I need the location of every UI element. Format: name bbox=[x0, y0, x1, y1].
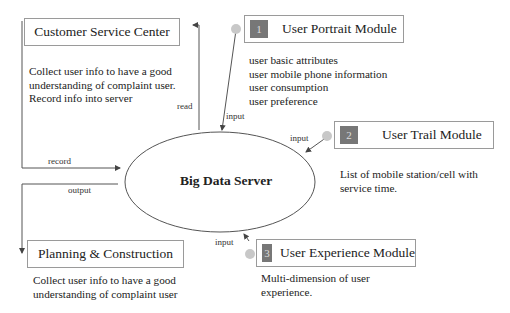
module-user-portrait: 1 User Portrait Module bbox=[244, 15, 404, 43]
module-title: User Portrait Module bbox=[282, 21, 397, 37]
module-number-badge: 1 bbox=[250, 20, 268, 38]
module-user-experience-description: Multi-dimension of user experience. bbox=[261, 272, 370, 299]
module-user-experience: 3 User Experience Module bbox=[256, 239, 416, 267]
customer-service-description: Collect user info to have a good underst… bbox=[29, 65, 176, 106]
input-label-2: input bbox=[290, 133, 309, 143]
input-label-1: input bbox=[226, 111, 245, 121]
output-label: output bbox=[68, 185, 91, 195]
customer-service-title: Customer Service Center bbox=[34, 24, 170, 40]
record-label: record bbox=[48, 156, 71, 166]
module-number-badge: 3 bbox=[262, 244, 272, 262]
read-label: read bbox=[177, 101, 193, 111]
module-user-trail-description: List of mobile station/cell with service… bbox=[340, 168, 478, 195]
module-number-badge: 2 bbox=[340, 126, 358, 144]
planning-construction-description: Collect user info to have a good underst… bbox=[33, 274, 177, 301]
planning-construction-box: Planning & Construction bbox=[27, 240, 184, 268]
customer-service-box: Customer Service Center bbox=[24, 18, 180, 46]
module-user-portrait-description: user basic attributes user mobile phone … bbox=[249, 54, 387, 108]
module-title: User Experience Module bbox=[280, 245, 415, 261]
input-label-3: input bbox=[215, 237, 234, 247]
module-title: User Trail Module bbox=[382, 127, 482, 143]
server-label: Big Data Server bbox=[180, 173, 272, 189]
planning-construction-title: Planning & Construction bbox=[38, 246, 173, 262]
module-user-trail: 2 User Trail Module bbox=[334, 121, 494, 149]
